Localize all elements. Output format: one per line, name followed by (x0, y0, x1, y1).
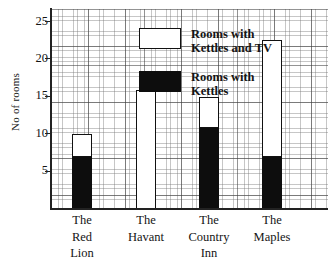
x-tick-label-line-3: Inn (169, 245, 249, 262)
bar-the-havant (136, 90, 156, 209)
bar-segment-kettles (199, 128, 219, 209)
legend-item-kettles-and-tv: Rooms with Kettles and TV (139, 27, 272, 55)
legend-label-line-1: Rooms with (191, 27, 272, 41)
legend-swatch-kettles (139, 71, 181, 92)
x-tick-label-line-2: Maples (232, 229, 312, 246)
y-tick-label-5: 5 (22, 164, 48, 176)
x-axis-tick-labels: The Red Lion The Havant The Country Inn … (51, 212, 328, 268)
bar-the-red-lion (72, 134, 92, 209)
y-tick-mark-10 (45, 133, 51, 134)
x-axis-line (50, 208, 328, 210)
legend-label-kettles: Rooms with Kettles (191, 70, 255, 98)
x-tick-label-line-3: Lion (42, 245, 122, 262)
bar-chart: No of rooms 25 20 15 10 5 (0, 0, 330, 270)
y-axis-line (50, 8, 52, 210)
y-tick-mark-15 (45, 96, 51, 97)
bar-segment-kettles-and-tv (72, 134, 92, 156)
legend-label-line-2: Kettles and TV (191, 41, 272, 55)
y-tick-mark-20 (45, 58, 51, 59)
y-tick-mark-5 (45, 171, 51, 172)
y-tick-mark-25 (45, 21, 51, 22)
legend-label-line-1: Rooms with (191, 70, 255, 84)
bar-segment-kettles-and-tv (199, 97, 219, 128)
legend-label-kettles-and-tv: Rooms with Kettles and TV (191, 27, 272, 55)
legend-label-line-2: Kettles (191, 84, 255, 98)
bar-segment-kettles-and-tv (262, 40, 282, 157)
legend-item-kettles: Rooms with Kettles (139, 70, 255, 98)
bar-the-country-inn (199, 97, 219, 209)
bar-the-maples (262, 40, 282, 209)
bar-segment-kettles (262, 157, 282, 209)
plot-area: Rooms with Kettles and TV Rooms with Ket… (51, 9, 328, 209)
bar-segment-kettles (72, 157, 92, 209)
x-tick-label-line-1: The (232, 212, 312, 229)
legend-swatch-kettles-and-tv (139, 28, 181, 49)
x-tick-label-the-maples: The Maples (232, 212, 312, 245)
y-tick-label-15: 15 (22, 89, 48, 101)
bar-segment-kettles-and-tv (136, 90, 156, 209)
